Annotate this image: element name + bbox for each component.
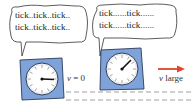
stationary-velocity-label: v = 0 <box>67 73 85 83</box>
stationary-clock <box>20 58 64 100</box>
moving-velocity-label: v large <box>159 73 183 83</box>
left-speech-line-1: tick..tick..tick.. <box>15 10 70 21</box>
right-speech-line-1: tick......tick...... <box>99 8 154 19</box>
moving-clock <box>100 48 144 90</box>
right-speech-line-2: tick......tick...... <box>99 20 154 31</box>
velocity-arrow-icon <box>158 66 185 73</box>
left-speech-line-2: tick..tick..tick.. <box>15 22 70 33</box>
